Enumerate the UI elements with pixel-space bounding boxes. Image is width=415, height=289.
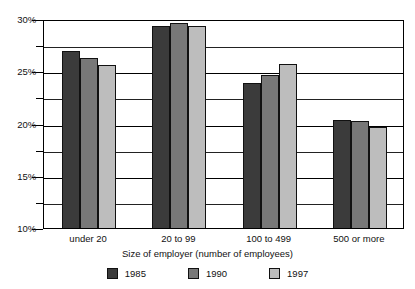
bar-1990-20-to-99[interactable] <box>170 23 188 228</box>
bar-1997-20-to-99[interactable] <box>188 26 206 228</box>
bar-1997-under-20[interactable] <box>98 65 116 228</box>
bar-group <box>62 21 116 228</box>
legend-swatch-1997 <box>269 268 280 279</box>
bar-group <box>333 21 387 228</box>
y-axis-tick-label: 10% <box>2 224 36 234</box>
bar-1990-500-or-more[interactable] <box>351 121 369 228</box>
x-axis-label-under-20: under 20 <box>43 233 133 244</box>
legend-label-1997: 1997 <box>287 268 308 279</box>
bar-1985-500-or-more[interactable] <box>333 120 351 228</box>
legend-swatch-1985 <box>107 268 118 279</box>
x-axis-title: Size of employer (number of employees) <box>0 248 415 259</box>
chart-legend: 198519901997 <box>0 268 415 279</box>
legend-item-1985[interactable]: 1985 <box>107 268 146 279</box>
legend-item-1997[interactable]: 1997 <box>269 268 308 279</box>
legend-item-1990[interactable]: 1990 <box>188 268 227 279</box>
bar-1985-100-to-499[interactable] <box>243 83 261 228</box>
bar-group <box>243 21 297 228</box>
bar-1997-100-to-499[interactable] <box>279 64 297 228</box>
y-axis-tick-label: 30% <box>2 15 36 25</box>
bar-group <box>152 21 206 228</box>
x-axis-label-500-or-more: 500 or more <box>314 233 404 244</box>
y-tick-minor <box>36 46 43 47</box>
y-axis-tick-label: 20% <box>2 120 36 130</box>
y-tick-minor <box>36 151 43 152</box>
legend-label-1990: 1990 <box>206 268 227 279</box>
bar-1997-500-or-more[interactable] <box>369 127 387 228</box>
bar-1985-20-to-99[interactable] <box>152 26 170 228</box>
y-axis-tick-label: 15% <box>2 172 36 182</box>
y-tick-minor <box>36 98 43 99</box>
bar-1985-under-20[interactable] <box>62 51 80 228</box>
x-axis-label-100-to-499: 100 to 499 <box>224 233 314 244</box>
bar-1990-under-20[interactable] <box>80 58 98 228</box>
bar-1990-100-to-499[interactable] <box>261 75 279 228</box>
y-axis-tick-label: 25% <box>2 67 36 77</box>
legend-label-1985: 1985 <box>125 268 146 279</box>
x-axis-label-20-to-99: 20 to 99 <box>133 233 223 244</box>
legend-swatch-1990 <box>188 268 199 279</box>
bar-chart: under 2020 to 99100 to 499500 or more Si… <box>0 0 415 289</box>
y-tick-minor <box>36 203 43 204</box>
plot-area <box>43 20 404 229</box>
